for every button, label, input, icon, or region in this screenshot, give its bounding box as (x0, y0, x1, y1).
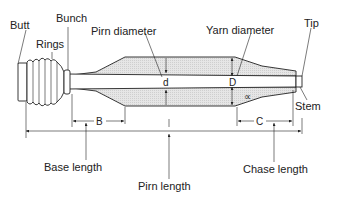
label-chase-length: Chase length (243, 163, 308, 175)
pirn-tube (66, 74, 302, 89)
symbol-B: B (96, 116, 103, 127)
label-tip: Tip (304, 17, 319, 29)
pirn-bunch (64, 70, 70, 94)
label-rings: Rings (36, 38, 65, 50)
label-base-length: Base length (44, 161, 102, 173)
label-pirn-length: Pirn length (138, 180, 191, 192)
pirn-butt (18, 58, 70, 106)
symbol-D: D (229, 77, 236, 88)
label-pirn-diameter: Pirn diameter (91, 25, 157, 37)
label-yarn-diameter: Yarn diameter (206, 24, 275, 36)
symbol-d: d (163, 77, 169, 88)
base-length-dimension: B (73, 116, 124, 160)
label-butt: Butt (10, 19, 30, 31)
pirn-diagram: d D ∝ B C Butt Rings Bunch Pirn diameter… (0, 0, 339, 200)
label-stem: Stem (295, 100, 321, 112)
label-bunch: Bunch (56, 12, 87, 24)
chase-length-dimension: C (238, 116, 292, 162)
pirn-tip (296, 76, 302, 87)
symbol-alpha: ∝ (244, 91, 251, 102)
symbol-C: C (256, 116, 263, 127)
